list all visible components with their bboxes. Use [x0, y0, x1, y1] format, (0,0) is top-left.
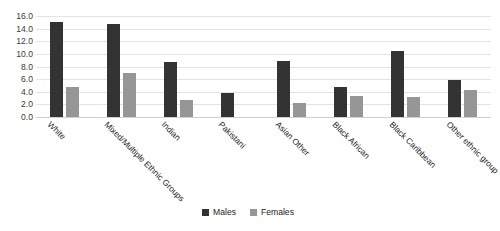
bar-group [391, 16, 420, 117]
x-axis-label: Other ethnic group [444, 120, 499, 175]
bar-females [464, 90, 477, 117]
bar-males [107, 24, 120, 117]
chart-title [0, 0, 496, 2]
y-axis-tick-label: 6.0 [21, 75, 33, 83]
legend-swatch-icon [202, 209, 209, 216]
bar-group [277, 16, 306, 117]
bar-group [164, 16, 193, 117]
legend-label: Males [213, 207, 236, 217]
y-axis: 16.014.012.010.08.06.04.02.00.0 [0, 16, 33, 117]
y-axis-tick-label: 0.0 [21, 113, 33, 121]
y-axis-tick-label: 12.0 [16, 37, 33, 45]
x-axis-label: Indian [160, 120, 183, 143]
y-axis-tick-label: 4.0 [21, 88, 33, 96]
legend-item[interactable]: Males [202, 207, 236, 217]
bar-group [448, 16, 477, 117]
y-axis-tick-label: 14.0 [16, 25, 33, 33]
bar-females [123, 73, 136, 117]
x-axis-label: Black Caribbean [387, 120, 437, 170]
bar-females [180, 100, 193, 117]
bar-males [164, 62, 177, 117]
plot-area [36, 16, 491, 117]
bar-females [407, 97, 420, 117]
bar-males [334, 87, 347, 117]
bar-males [448, 80, 461, 117]
bar-males [277, 61, 290, 117]
y-axis-tick-label: 16.0 [16, 12, 33, 20]
x-axis-label: Asian Other [274, 120, 312, 158]
legend-swatch-icon [250, 209, 257, 216]
x-axis-label: Black African [330, 120, 371, 161]
bar-females [293, 103, 306, 117]
y-axis-tick-label: 10.0 [16, 50, 33, 58]
bar-males [391, 51, 404, 117]
bar-males [221, 93, 234, 117]
y-axis-tick-label: 8.0 [21, 63, 33, 71]
bar-group [107, 16, 136, 117]
y-axis-tick-label: 2.0 [21, 100, 33, 108]
legend-item[interactable]: Females [250, 207, 294, 217]
bar-males [50, 22, 63, 117]
legend-label: Females [261, 207, 294, 217]
x-axis-category-labels: WhiteMixed/Multiple Ethnic GroupsIndianP… [36, 118, 491, 202]
bar-females [350, 96, 363, 117]
bar-group [50, 16, 79, 117]
bar-group [221, 16, 250, 117]
bar-groups [36, 16, 491, 117]
x-axis-label: White [46, 120, 68, 142]
x-axis-label: Pakistani [217, 120, 247, 150]
chart-legend: MalesFemales [0, 207, 496, 217]
bar-group [334, 16, 363, 117]
bar-females [66, 87, 79, 117]
